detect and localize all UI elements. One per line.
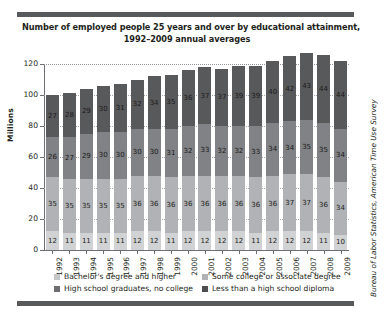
- bar-segment: 30: [97, 86, 110, 133]
- bar-stack: 43353712: [300, 53, 313, 250]
- bar-segment-value: 31: [114, 105, 127, 112]
- bar-segment: 30: [114, 132, 127, 179]
- bar-segment: 34: [283, 121, 296, 174]
- bar-segment-value: 12: [300, 237, 313, 244]
- x-tick-mark: [324, 250, 325, 254]
- chart-title-line-2: 1992–2009 annual averages: [22, 34, 352, 46]
- legend-item[interactable]: Less than a high school diploma: [202, 285, 344, 293]
- x-tick-mark: [137, 250, 138, 254]
- legend-item[interactable]: High school graduates, no college: [54, 285, 202, 293]
- bar-segment-value: 37: [198, 92, 211, 99]
- bar-segment-value: 27: [63, 154, 76, 161]
- bar-stack: 28273511: [63, 93, 76, 250]
- top-rule: [17, 12, 354, 17]
- bar-segment: 44: [317, 55, 330, 123]
- bar-segment: 12: [283, 231, 296, 250]
- bar-segment: 31: [165, 129, 178, 177]
- y-tick-label: 120: [24, 60, 39, 68]
- bar-segment-value: 34: [148, 99, 161, 106]
- bar-segment: 43: [300, 53, 313, 120]
- bar-segment: 34: [334, 182, 347, 235]
- bar-segment: 12: [131, 231, 144, 250]
- bar-segment-value: 36: [165, 202, 178, 209]
- bar-segment-value: 36: [182, 95, 195, 102]
- bar-segment: 27: [46, 95, 59, 137]
- bar-segment: 36: [198, 176, 211, 232]
- bar-segment: 34: [334, 129, 347, 182]
- bar-stack: 39333611: [249, 66, 262, 250]
- bar-segment: 28: [63, 93, 76, 136]
- bar-segment-value: 12: [215, 237, 228, 244]
- bar-segment: 32: [232, 126, 245, 176]
- bar-segment-value: 36: [198, 200, 211, 207]
- bar-segment: 35: [165, 75, 178, 129]
- bar-segment-value: 12: [131, 237, 144, 244]
- y-tick-label: 0: [33, 246, 38, 254]
- bar-segment-value: 11: [249, 238, 262, 245]
- bar-segment: 36: [249, 177, 262, 233]
- bar-segment: 11: [165, 233, 178, 250]
- bar-segment-value: 36: [182, 200, 195, 207]
- bar-segment: 12: [300, 231, 313, 250]
- bar-segment: 36: [317, 177, 330, 233]
- bar-segment: 37: [283, 174, 296, 231]
- bar-segment: 30: [131, 129, 144, 176]
- x-tick-mark: [341, 250, 342, 254]
- bar-segment-value: 44: [317, 85, 330, 92]
- chart-figure: Number of employed people 25 years and o…: [0, 0, 385, 321]
- legend-swatch: [54, 286, 60, 292]
- bar-segment-value: 36: [215, 200, 228, 207]
- bar-segment-value: 26: [46, 154, 59, 161]
- x-tick-mark: [52, 250, 53, 254]
- x-tick-mark: [256, 250, 257, 254]
- bar-segment-value: 33: [198, 147, 211, 154]
- bar-segment: 35: [63, 179, 76, 233]
- plot-area: Millions 020406080100120 272635122827351…: [44, 64, 349, 250]
- bar-segment: 36: [165, 177, 178, 233]
- bar-stack: 35313611: [165, 75, 178, 250]
- bar-segment-value: 37: [215, 94, 228, 101]
- bottom-rule: [17, 301, 354, 306]
- bar-segment: 30: [148, 129, 161, 176]
- bar-segment-value: 35: [97, 202, 110, 209]
- bar-segment: 30: [97, 132, 110, 179]
- bar-stack: 42343712: [283, 56, 296, 250]
- bar-segment-value: 11: [317, 238, 330, 245]
- bar-segment-value: 10: [334, 239, 347, 246]
- bar-segment-value: 35: [114, 202, 127, 209]
- x-tick-mark: [86, 250, 87, 254]
- bar-segment-value: 11: [165, 238, 178, 245]
- x-tick-mark: [120, 250, 121, 254]
- bar-segment-value: 35: [165, 98, 178, 105]
- legend-item[interactable]: Some college or associate degree: [202, 273, 344, 281]
- legend-item[interactable]: Bachelor's degree and higher: [54, 273, 202, 281]
- x-tick-mark: [273, 250, 274, 254]
- bar-segment-value: 11: [97, 238, 110, 245]
- legend-label: Less than a high school diploma: [212, 285, 334, 293]
- bar-stack: 29293511: [80, 89, 93, 250]
- x-tick-mark: [171, 250, 172, 254]
- bar-segment: 12: [182, 231, 195, 250]
- bar-stack: 34303612: [148, 76, 161, 250]
- bar-stack: 32303612: [131, 80, 144, 250]
- bar-segment: 35: [114, 179, 127, 233]
- bar-segment: 36: [182, 70, 195, 126]
- bar-segment: 32: [215, 126, 228, 176]
- bar-segment-value: 37: [283, 199, 296, 206]
- bar-segment-value: 12: [46, 237, 59, 244]
- x-tick-label: 2009: [344, 257, 351, 276]
- bar-segment-value: 35: [63, 202, 76, 209]
- bar-segment-value: 34: [334, 205, 347, 212]
- bar-segment-value: 37: [300, 199, 313, 206]
- bar-segment-value: 11: [63, 238, 76, 245]
- bar-segment: 35: [97, 179, 110, 233]
- bar-segment: 33: [249, 126, 262, 177]
- bar-segment-value: 12: [148, 237, 161, 244]
- bar-segment: 31: [114, 84, 127, 132]
- bar-segment-value: 31: [165, 150, 178, 157]
- source-credit: Bureau of Labor Statistics, American Tim…: [369, 99, 378, 297]
- bar-segment: 11: [114, 233, 127, 250]
- x-tick-mark: [239, 250, 240, 254]
- legend-label: High school graduates, no college: [64, 285, 193, 293]
- x-tick-mark: [205, 250, 206, 254]
